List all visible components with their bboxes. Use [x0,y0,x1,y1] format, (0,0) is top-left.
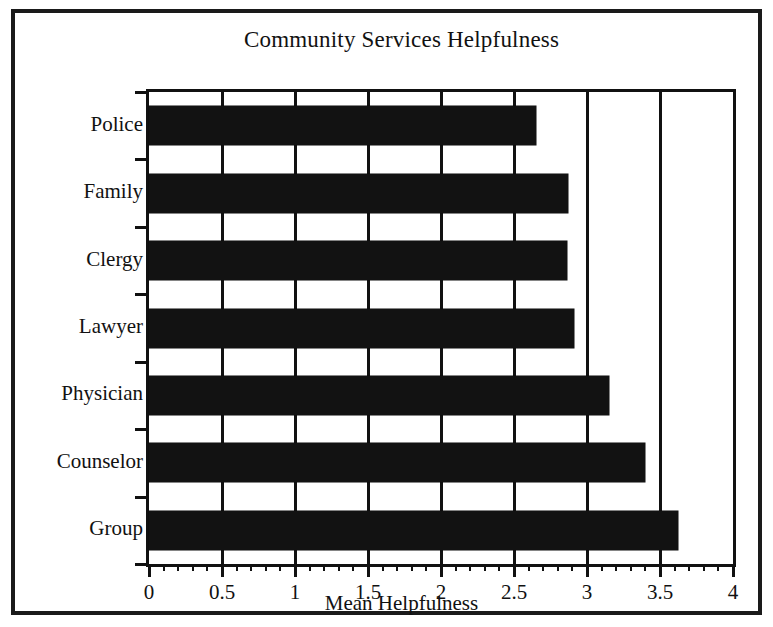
x-tick-major [367,564,370,577]
x-tick-minor [455,564,457,571]
x-tick-minor [250,564,252,571]
x-tick-major [221,564,224,577]
gridline [586,92,589,564]
plot-area: 00.511.522.533.54 [149,92,733,564]
y-axis-category-labels: PoliceFamilyClergyLawyerPhysicianCounsel… [0,92,143,564]
x-tick-major [148,564,151,577]
x-tick-minor [484,564,486,571]
x-tick-minor [411,564,413,571]
x-tick-minor [396,564,398,571]
y-axis-label-clergy: Clergy [0,247,143,272]
x-tick-minor [192,564,194,571]
x-tick-minor [630,564,632,571]
x-tick-major [586,564,589,577]
x-tick-minor [309,564,311,571]
x-tick-minor [498,564,500,571]
bar-lawyer [149,309,574,348]
x-tick-major [513,564,516,577]
x-tick-major [440,564,443,577]
x-tick-minor [236,564,238,571]
x-tick-minor [177,564,179,571]
x-tick-minor [206,564,208,571]
y-axis-label-police: Police [0,112,143,137]
x-tick-minor [615,564,617,571]
x-tick-minor [557,564,559,571]
y-axis-label-physician: Physician [0,381,143,406]
y-axis-label-lawyer: Lawyer [0,314,143,339]
x-tick-minor [528,564,530,571]
x-tick-minor [688,564,690,571]
x-tick-minor [323,564,325,571]
bar-clergy [149,241,567,280]
x-tick-major [294,564,297,577]
y-axis-label-counselor: Counselor [0,449,143,474]
x-tick-minor [265,564,267,571]
x-tick-minor [352,564,354,571]
y-axis-label-group: Group [0,516,143,541]
x-tick-minor [601,564,603,571]
x-tick-minor [469,564,471,571]
figure-frame: Community Services Helpfulness 00.511.52… [11,9,762,615]
bar-family [149,174,568,213]
gridline [659,92,662,564]
x-tick-major [659,564,662,577]
bar-group [149,511,678,550]
bar-counselor [149,443,645,482]
x-tick-minor [163,564,165,571]
x-tick-minor [703,564,705,571]
figure-canvas: Community Services Helpfulness 00.511.52… [0,0,773,627]
x-tick-minor [542,564,544,571]
x-tick-minor [644,564,646,571]
chart-title: Community Services Helpfulness [15,27,773,53]
x-tick-minor [382,564,384,571]
x-tick-minor [425,564,427,571]
bar-physician [149,376,609,415]
x-tick-minor [338,564,340,571]
x-tick-minor [717,564,719,571]
bar-police [149,106,536,145]
x-tick-minor [279,564,281,571]
y-axis-label-family: Family [0,179,143,204]
x-axis-title: Mean Helpfulness [15,591,773,616]
x-tick-minor [674,564,676,571]
plot-border-right [733,89,736,567]
x-tick-minor [571,564,573,571]
x-tick-major [732,564,735,577]
